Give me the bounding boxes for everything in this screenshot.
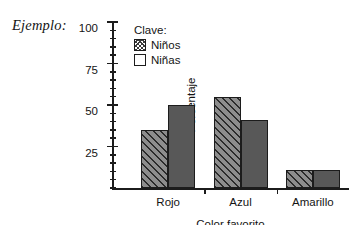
- y-axis-tick-label: 100: [79, 22, 98, 34]
- y-axis-minor-tick: [110, 187, 116, 189]
- bar: [313, 170, 340, 188]
- y-axis-minor-tick: [110, 96, 116, 98]
- y-axis-minor-tick: [110, 121, 116, 123]
- x-axis-line: [112, 188, 349, 190]
- bar: [168, 105, 195, 188]
- y-axis-major-tick: [107, 21, 118, 23]
- y-axis-tick-label: 50: [85, 105, 98, 117]
- y-axis-minor-tick: [110, 179, 116, 181]
- empty-square-icon: [134, 54, 146, 66]
- y-axis-tick-label: 75: [85, 64, 98, 76]
- y-axis-major-tick: [107, 63, 118, 65]
- chart-figure: Ejemplo: 255075100 Porcentaje RojoAzulAm…: [0, 0, 362, 225]
- x-axis-tick: [277, 188, 279, 194]
- bar: [141, 130, 168, 188]
- x-axis-tick: [204, 188, 206, 194]
- y-axis-minor-tick: [110, 38, 116, 40]
- legend: Clave: NiñosNiñas: [134, 24, 224, 68]
- y-axis-minor-tick: [110, 30, 116, 32]
- bar: [286, 170, 313, 188]
- bar: [241, 120, 268, 188]
- y-axis-major-tick: [107, 104, 118, 106]
- y-axis-minor-tick: [110, 46, 116, 48]
- y-axis-minor-tick: [110, 71, 116, 73]
- y-axis-minor-tick: [110, 54, 116, 56]
- y-axis-minor-tick: [110, 79, 116, 81]
- y-axis-minor-tick: [110, 162, 116, 164]
- x-axis-category-label: Azul: [229, 196, 251, 208]
- x-axis-title: Color favorito: [196, 218, 264, 225]
- x-axis-category-label: Amarillo: [292, 196, 334, 208]
- legend-entry: Niñas: [134, 54, 224, 66]
- legend-entry: Niños: [134, 39, 224, 51]
- y-axis-minor-tick: [110, 137, 116, 139]
- y-axis-minor-tick: [110, 129, 116, 131]
- y-axis-minor-tick: [110, 154, 116, 156]
- bar: [214, 97, 241, 188]
- x-axis-category-label: Rojo: [156, 196, 180, 208]
- y-axis-minor-tick: [110, 88, 116, 90]
- plot-area: 255075100 Porcentaje RojoAzulAmarillo Co…: [112, 22, 349, 188]
- y-axis-tick-label: 25: [85, 147, 98, 159]
- legend-title: Clave:: [134, 24, 224, 36]
- legend-entry-label: Niñas: [151, 54, 180, 66]
- hatched-square-icon: [134, 39, 146, 51]
- legend-entries: NiñosNiñas: [134, 39, 224, 66]
- y-axis-major-tick: [107, 146, 118, 148]
- example-caption: Ejemplo:: [12, 17, 67, 34]
- y-axis-minor-tick: [110, 171, 116, 173]
- legend-entry-label: Niños: [151, 39, 180, 51]
- y-axis-minor-tick: [110, 113, 116, 115]
